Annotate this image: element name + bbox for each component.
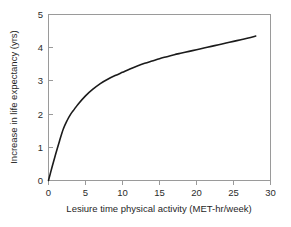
line-chart: 5 4 3 2 1 0 0 5 10 15 20 25 30 Lesiure t… bbox=[0, 0, 291, 227]
chart-background bbox=[0, 0, 291, 227]
x-tick-label-30: 30 bbox=[265, 187, 276, 198]
y-tick-label-0: 0 bbox=[38, 175, 43, 186]
x-tick-label-10: 10 bbox=[117, 187, 128, 198]
y-tick-label-2: 2 bbox=[38, 109, 43, 120]
x-axis-title: Lesiure time physical activity (MET-hr/w… bbox=[66, 203, 251, 214]
x-tick-label-5: 5 bbox=[83, 187, 88, 198]
y-tick-label-5: 5 bbox=[38, 9, 43, 20]
y-tick-label-3: 3 bbox=[38, 75, 43, 86]
x-tick-label-0: 0 bbox=[46, 187, 51, 198]
x-tick-label-25: 25 bbox=[228, 187, 239, 198]
y-tick-label-4: 4 bbox=[38, 42, 43, 53]
x-tick-label-20: 20 bbox=[191, 187, 202, 198]
y-axis-title: Increase in life expectancy (yrs) bbox=[8, 30, 19, 164]
x-tick-label-15: 15 bbox=[154, 187, 165, 198]
chart-figure: 5 4 3 2 1 0 0 5 10 15 20 25 30 Lesiure t… bbox=[0, 0, 291, 227]
y-tick-label-1: 1 bbox=[38, 142, 43, 153]
